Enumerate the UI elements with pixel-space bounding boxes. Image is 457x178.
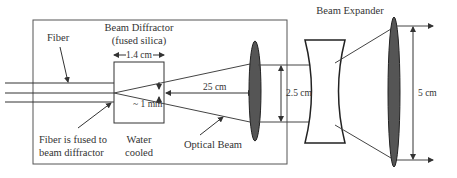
- fused-label-line1: Fiber is fused to: [39, 134, 107, 145]
- fiber-label: Fiber: [47, 32, 70, 43]
- beam-diffractor-label-line2: (fused silica): [112, 35, 167, 47]
- beam-expander-label: Beam Expander: [316, 5, 384, 16]
- beam-diffractor-label-line1: Beam Diffractor: [105, 22, 174, 33]
- fiber-lines: [5, 83, 114, 102]
- beam-width-out-label: 5 cm: [418, 88, 437, 98]
- optical-beam-label: Optical Beam: [184, 139, 242, 150]
- expander-convex-lens: [388, 17, 400, 167]
- diffractor-width-label: 1.4 cm: [126, 50, 152, 60]
- distance-label: 25 cm: [203, 82, 227, 92]
- water-cooled-label-line2: cooled: [125, 147, 154, 158]
- optical-setup-diagram: Fiber Beam Diffractor (fused silica) 1.4…: [0, 0, 457, 178]
- optical-beam-pointer-arrow: [200, 117, 223, 135]
- water-cooled-label-line1: Water: [127, 134, 152, 145]
- beam-width-in-label: 2.5 cm: [286, 88, 312, 98]
- fused-label-line2: beam diffractor: [39, 147, 104, 158]
- fused-pointer-arrow: [78, 103, 111, 128]
- spot-size-label: ~ 1 mm: [133, 99, 163, 109]
- collimating-lens: [249, 41, 261, 141]
- fiber-pointer-arrow: [60, 47, 68, 82]
- beam-diffractor-block: [114, 62, 164, 123]
